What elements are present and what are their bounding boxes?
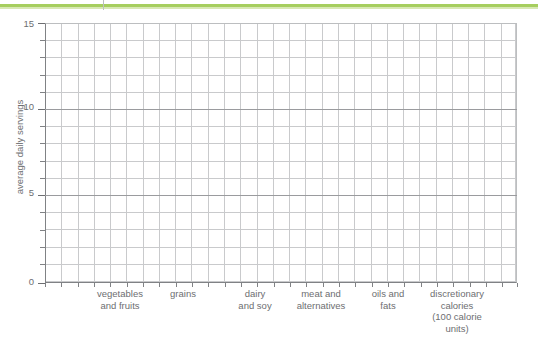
y-axis-label-5: 5 xyxy=(29,188,34,198)
y-axis-minor-tick xyxy=(40,230,45,231)
y-axis-tick-15 xyxy=(38,23,45,24)
x-axis-tick xyxy=(437,283,438,287)
x-axis-tick xyxy=(453,283,454,287)
y-gridline-major-10 xyxy=(45,109,517,110)
x-axis-tick xyxy=(225,283,226,287)
x-axis-tick xyxy=(290,283,291,287)
x-axis-tick xyxy=(94,283,95,287)
x-axis-tick xyxy=(241,283,242,287)
x-axis-tick xyxy=(421,283,422,287)
x-axis-tick xyxy=(323,283,324,287)
y-axis-minor-tick xyxy=(40,264,45,265)
plot-grid-area xyxy=(45,23,517,283)
y-axis-label-0: 0 xyxy=(29,277,34,287)
y-axis-label-10: 10 xyxy=(23,102,34,112)
x-axis-tick xyxy=(257,283,258,287)
x-axis-tick xyxy=(404,283,405,287)
label-line: (100 calorie xyxy=(402,311,512,323)
y-axis-minor-tick xyxy=(40,126,45,127)
y-axis-title: average daily servings xyxy=(13,17,27,277)
x-axis-tick xyxy=(517,283,518,287)
x-axis-tick xyxy=(127,283,128,287)
y-axis-label-15: 15 xyxy=(23,19,34,29)
x-axis-tick xyxy=(208,283,209,287)
y-axis-minor-tick xyxy=(40,57,45,58)
x-axis-tick xyxy=(159,283,160,287)
y-gridline-major-5 xyxy=(45,195,517,196)
x-axis-tick xyxy=(470,283,471,287)
x-axis-category-label-discretionary-calories: discretionary calories (100 calorie unit… xyxy=(402,288,512,334)
label-line: units) xyxy=(402,323,512,335)
x-axis-tick xyxy=(192,283,193,287)
y-axis-minor-tick xyxy=(40,178,45,179)
y-axis-minor-tick xyxy=(40,247,45,248)
x-axis-tick xyxy=(388,283,389,287)
y-axis-tick-10 xyxy=(38,109,45,110)
x-axis-tick xyxy=(176,283,177,287)
y-axis-tick-0 xyxy=(38,283,45,284)
y-axis-tick-5 xyxy=(38,195,45,196)
x-axis-tick xyxy=(502,283,503,287)
blank-grid-chart: average daily servings 15 10 5 0 xyxy=(0,0,538,343)
x-axis-tick xyxy=(61,283,62,287)
y-axis-minor-tick xyxy=(40,92,45,93)
y-axis-minor-tick xyxy=(40,161,45,162)
x-axis-tick xyxy=(339,283,340,287)
x-axis-tick xyxy=(143,283,144,287)
y-axis-minor-tick xyxy=(40,212,45,213)
x-axis-tick xyxy=(110,283,111,287)
x-axis-tick xyxy=(274,283,275,287)
y-axis-minor-tick xyxy=(40,75,45,76)
x-axis-tick xyxy=(306,283,307,287)
x-axis-tick xyxy=(78,283,79,287)
label-line: discretionary xyxy=(402,288,512,300)
label-line: calories xyxy=(402,300,512,312)
x-axis-tick xyxy=(372,283,373,287)
label-line: and fruits xyxy=(65,300,175,312)
y-axis-minor-tick xyxy=(40,143,45,144)
x-axis-tick xyxy=(486,283,487,287)
y-axis-minor-tick xyxy=(40,40,45,41)
x-axis-tick xyxy=(355,283,356,287)
x-axis-tick xyxy=(45,283,46,287)
